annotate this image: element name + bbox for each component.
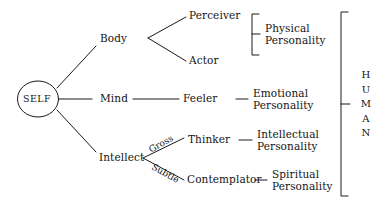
spiritual-personality-line2: Personality [272, 180, 333, 192]
physical-personality-line2: Personality [265, 34, 326, 46]
node-emotional-personality: Emotional Personality [253, 87, 323, 111]
node-contemplator: Contemplator [187, 174, 262, 186]
node-thinker: Thinker [188, 134, 230, 146]
diagram-canvas: SELF Body Mind Intellect Gross Subtle Pe… [0, 0, 387, 215]
human-letter-m: M [358, 97, 374, 112]
edge-body-perceiver [148, 17, 186, 38]
node-self: SELF [23, 93, 51, 104]
intellectual-personality-line2: Personality [257, 140, 318, 152]
node-physical-personality: Physical Personality [265, 22, 331, 46]
node-intellect: Intellect [99, 152, 144, 164]
node-feeler: Feeler [183, 93, 217, 105]
human-letter-u: U [358, 83, 374, 98]
node-actor: Actor [189, 55, 219, 67]
node-perceiver: Perceiver [189, 10, 240, 22]
edge-self-intellect [57, 110, 96, 152]
human-letter-h: H [358, 68, 374, 83]
spiritual-personality-line1: Spiritual [272, 168, 319, 180]
edge-body-actor [148, 38, 186, 61]
emotional-personality-line1: Emotional [253, 87, 308, 99]
node-spiritual-personality: Spiritual Personality [272, 168, 340, 192]
human-letter-n: N [358, 126, 374, 141]
node-intellectual-personality: Intellectual Personality [257, 128, 329, 152]
edge-self-body [57, 46, 96, 88]
node-mind: Mind [100, 93, 128, 105]
node-body: Body [100, 33, 127, 45]
human-letter-a: A [358, 112, 374, 127]
emotional-personality-line2: Personality [253, 99, 314, 111]
physical-personality-line1: Physical [265, 22, 310, 34]
intellectual-personality-line1: Intellectual [257, 128, 319, 140]
group-label-human: H U M A N [358, 68, 374, 141]
